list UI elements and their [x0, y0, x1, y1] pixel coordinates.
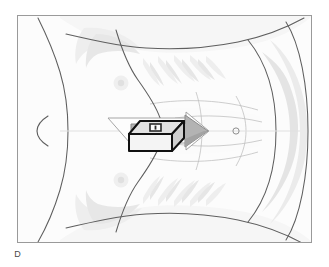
device-box [129, 121, 184, 151]
box-top-marker-icon [150, 124, 161, 131]
nipple-left [114, 76, 129, 91]
panel-label: D [11, 248, 24, 260]
anatomical-figure-canvas [0, 0, 329, 267]
torso-illustration [17, 15, 312, 244]
figure-panel: D [0, 0, 329, 267]
nipple-right [114, 173, 129, 188]
